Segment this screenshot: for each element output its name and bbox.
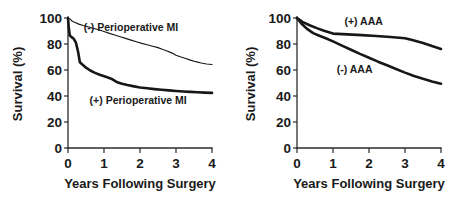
y-axis-title-left: Survival (%)	[10, 47, 25, 121]
x-tick-label-4-left: 4	[208, 156, 216, 171]
plot-area-left: Survival (%) 100 80 60 40 20 0	[0, 0, 233, 198]
x-tick-label-3-left: 3	[172, 156, 180, 171]
y-tick-label-60-right: 60	[276, 63, 291, 78]
x-tick-label-1-left: 1	[100, 156, 108, 171]
y-tick-label-0-right: 0	[283, 141, 291, 156]
y-tick-label-60-left: 60	[47, 63, 62, 78]
y-tick-label-40-left: 40	[47, 89, 62, 104]
y-tick-label-20-right: 20	[276, 115, 291, 130]
series-annotation-positive-perioperative-mi: (+) Perioperative MI	[90, 94, 187, 106]
chart-panel-left: Survival (%) 100 80 60 40 20 0	[0, 0, 233, 198]
x-tick-label-2-right: 2	[365, 156, 373, 171]
x-tick-label-2-left: 2	[136, 156, 144, 171]
plot-area-right: Survival (%) 100 80 60 40 20 0 0 1 2 3	[233, 0, 466, 198]
y-axis-title-right: Survival (%)	[243, 47, 258, 121]
y-tick-label-80-right: 80	[276, 37, 291, 52]
y-tick-label-0-left: 0	[54, 141, 62, 156]
x-tick-label-0-left: 0	[64, 156, 72, 171]
y-tick-label-100-right: 100	[268, 11, 291, 26]
y-tick-label-100-left: 100	[39, 11, 62, 26]
y-tick-label-40-right: 40	[276, 89, 291, 104]
x-axis-title-right: Years Following Surgery	[293, 176, 445, 191]
series-annotation-negative-perioperative-mi: (-) Perioperative MI	[84, 21, 179, 33]
series-annotation-positive-aaa: (+) AAA	[344, 15, 383, 27]
survival-curves-figure: Survival (%) 100 80 60 40 20 0	[0, 0, 466, 198]
x-tick-label-3-right: 3	[401, 156, 409, 171]
series-annotation-negative-aaa: (-) AAA	[337, 63, 373, 75]
x-axis-title-left: Years Following Surgery	[64, 176, 216, 191]
x-tick-label-1-right: 1	[329, 156, 337, 171]
x-tick-label-0-right: 0	[293, 156, 301, 171]
y-tick-label-20-left: 20	[47, 115, 62, 130]
y-tick-label-80-left: 80	[47, 37, 62, 52]
chart-panel-right: Survival (%) 100 80 60 40 20 0 0 1 2 3	[233, 0, 466, 198]
x-tick-label-4-right: 4	[437, 156, 445, 171]
